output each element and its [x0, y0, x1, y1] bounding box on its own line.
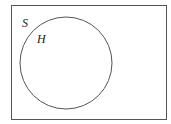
- universal-set-label: S: [22, 16, 28, 30]
- set-h-circle: [20, 17, 112, 109]
- venn-diagram: S H: [0, 0, 171, 124]
- set-h-label: H: [36, 32, 47, 46]
